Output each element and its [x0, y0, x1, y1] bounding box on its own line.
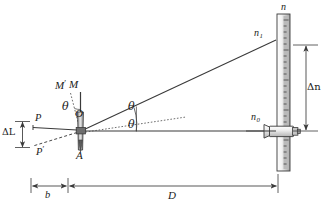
label-point-p-prime: P′ [36, 146, 44, 157]
lever-arms [33, 125, 77, 146]
label-delta-n: Δn [307, 82, 321, 92]
label-scale-n0: n0 [251, 112, 260, 124]
figure-canvas: M′ M θ O A P P′ ΔL θ θ n n1 n0 Δn b D [0, 0, 324, 219]
label-dim-d: D [168, 190, 176, 201]
label-delta-l: ΔL [2, 127, 15, 137]
delta-l-dimension [15, 122, 30, 148]
label-point-a: A [76, 150, 83, 161]
label-theta-mirror: θ [62, 101, 69, 112]
pivot-hub [76, 128, 85, 134]
label-scale-n1: n1 [254, 28, 263, 40]
label-point-p: P [35, 113, 41, 124]
label-theta-lower: θ [128, 119, 135, 130]
label-pivot-o: O [75, 108, 83, 119]
light-rays [79, 40, 276, 133]
label-mirror-normal: M [69, 79, 78, 90]
mirror-assembly [71, 92, 86, 152]
label-scale-n: n [281, 2, 286, 12]
baseline-dimensions [31, 174, 278, 193]
ray-reflected [81, 40, 276, 131]
diagram-svg [0, 0, 324, 219]
label-dim-b: b [45, 190, 50, 201]
label-theta-upper: θ [128, 101, 135, 112]
lever-arm-p [33, 128, 77, 131]
lever-arm-p-prime [33, 133, 77, 147]
scale-ruler [277, 14, 290, 171]
label-mirror-rotated: M′ [55, 79, 66, 91]
